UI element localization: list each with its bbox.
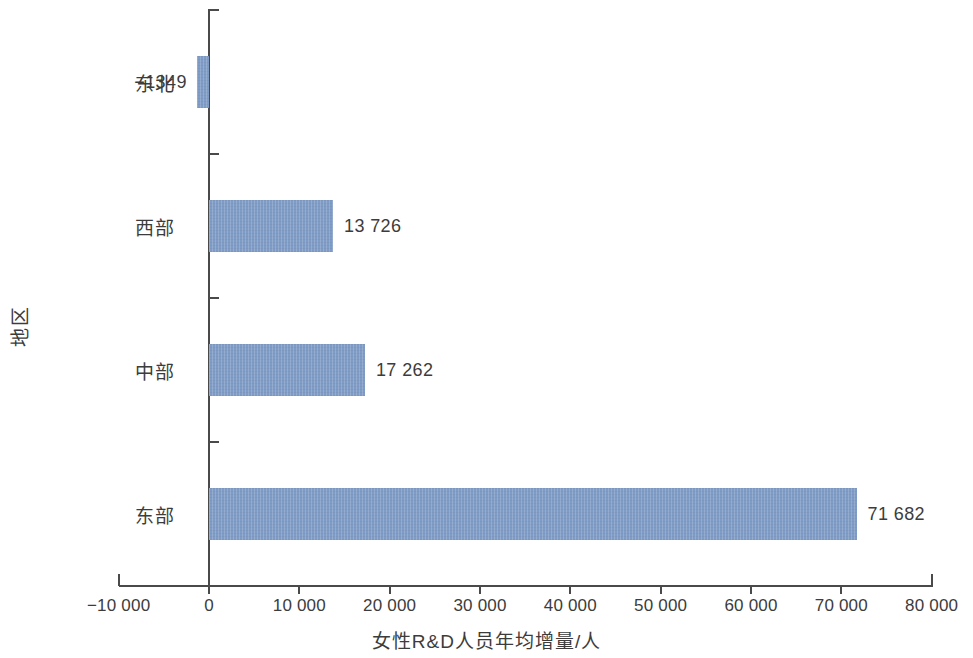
x-axis-tick-label: 60 000 <box>724 596 777 616</box>
bar <box>209 488 857 540</box>
x-axis-tick <box>389 585 391 594</box>
bar-value-label: 13 726 <box>344 216 401 237</box>
x-axis-title: 女性R&D人员年均增量/人 <box>0 626 973 653</box>
x-axis-tick-label: 30 000 <box>453 596 506 616</box>
x-axis-tick <box>479 585 481 594</box>
category-label: 中部 <box>135 357 175 384</box>
x-axis-tick <box>569 585 571 594</box>
bar-value-label: 17 262 <box>376 360 433 381</box>
x-axis-tick <box>208 585 210 594</box>
x-axis-tick-label: 40 000 <box>544 596 597 616</box>
category-label: 西部 <box>135 213 175 240</box>
bar-value-label: −1349 <box>134 72 187 93</box>
x-axis-tick-label: 70 000 <box>815 596 868 616</box>
x-axis-tick <box>840 585 842 594</box>
x-axis-tick-label: 50 000 <box>634 596 687 616</box>
bar-chart: −10 000010 00020 00030 00040 00050 00060… <box>0 0 973 658</box>
bar-value-label: 71 682 <box>868 504 925 525</box>
x-axis-tick-label: 20 000 <box>363 596 416 616</box>
x-axis-tick <box>750 585 752 594</box>
y-axis-tick <box>208 441 219 443</box>
category-label: 东部 <box>135 501 175 528</box>
x-axis-tick-label: 80 000 <box>905 596 958 616</box>
x-axis-line <box>119 585 933 587</box>
y-axis-tick <box>208 153 219 155</box>
y-axis-title: 地区 <box>5 286 32 366</box>
x-axis-tick <box>118 574 120 586</box>
x-axis-tick-label: 10 000 <box>273 596 326 616</box>
x-axis-tick <box>660 585 662 594</box>
x-axis-tick <box>931 574 933 586</box>
x-axis-tick-label: −10 000 <box>87 596 150 616</box>
bar <box>197 56 209 108</box>
x-axis-tick <box>298 585 300 594</box>
y-axis-tick <box>208 9 219 11</box>
y-axis-tick <box>208 297 219 299</box>
x-axis-tick-label: 0 <box>204 596 214 616</box>
bar <box>209 200 333 252</box>
bar <box>209 344 365 396</box>
